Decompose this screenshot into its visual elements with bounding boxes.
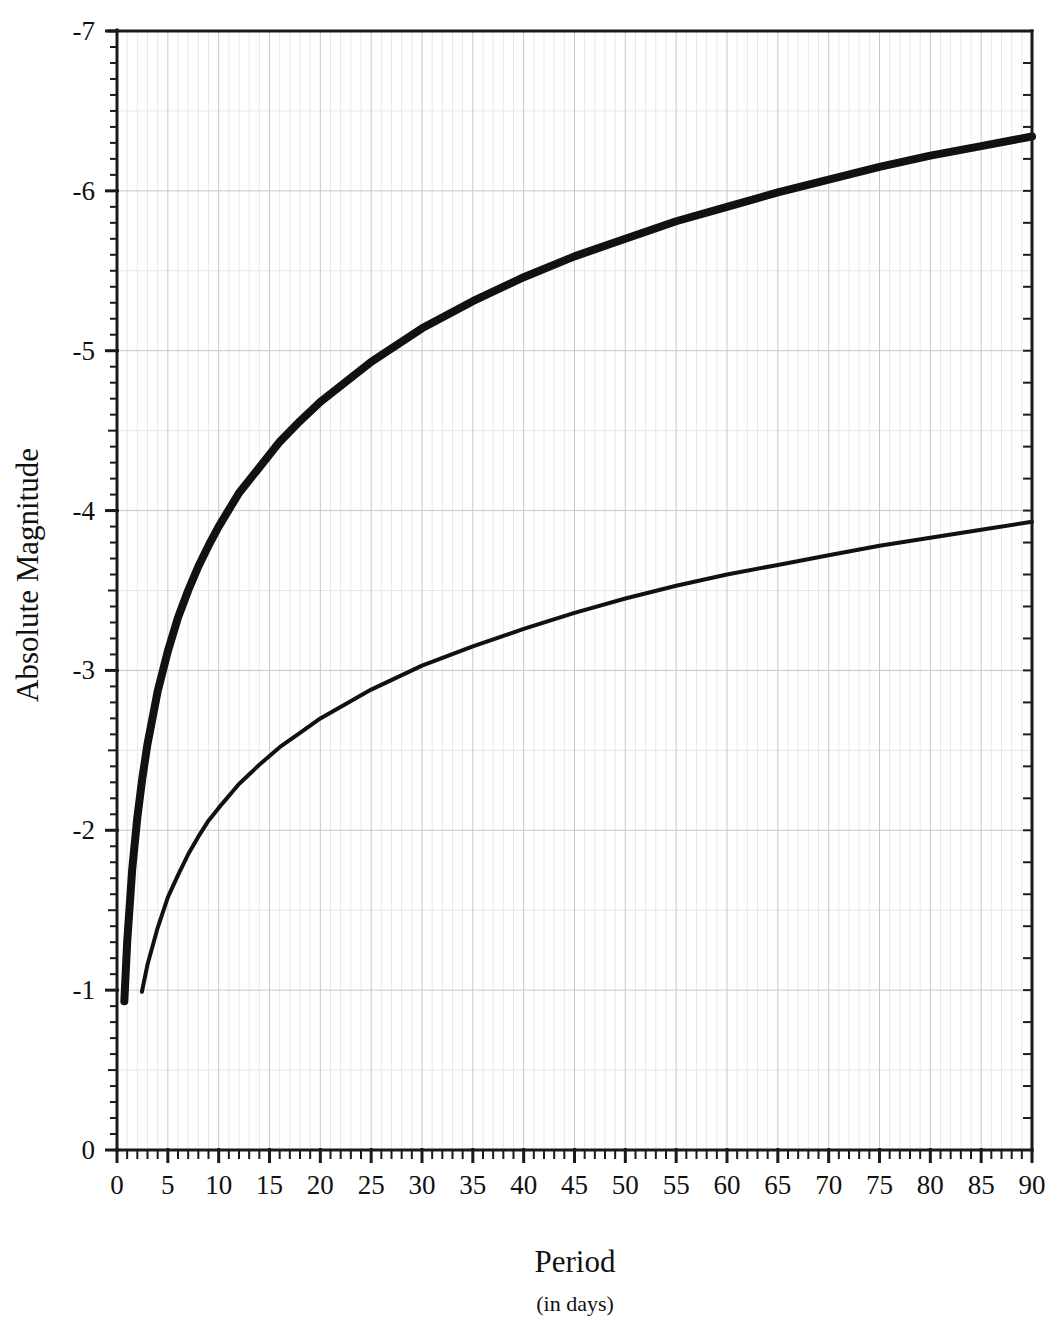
x-tick-label: 80	[917, 1170, 944, 1200]
chart-container: 051015202530354045505560657075808590 0-1…	[0, 0, 1064, 1327]
x-axis-subtitle: (in days)	[536, 1291, 614, 1316]
x-tick-label: 40	[510, 1170, 537, 1200]
x-tick-label: 55	[663, 1170, 690, 1200]
x-tick-label: 90	[1019, 1170, 1046, 1200]
y-axis-title: Absolute Magnitude	[10, 448, 45, 702]
x-tick-label: 5	[161, 1170, 175, 1200]
x-tick-label: 25	[358, 1170, 385, 1200]
x-tick-label: 75	[866, 1170, 893, 1200]
x-tick-label: 20	[307, 1170, 334, 1200]
x-tick-label: 70	[815, 1170, 842, 1200]
y-tick-label: -3	[73, 655, 96, 685]
x-tick-label: 10	[205, 1170, 232, 1200]
x-tick-label: 50	[612, 1170, 639, 1200]
y-tick-label: -4	[73, 496, 96, 526]
x-axis-title: Period	[535, 1244, 616, 1279]
x-tick-label: 30	[409, 1170, 436, 1200]
x-tick-label: 60	[714, 1170, 741, 1200]
y-tick-label: 0	[82, 1135, 96, 1165]
x-tick-label: 15	[256, 1170, 283, 1200]
y-tick-label: -6	[73, 176, 96, 206]
plot-background	[0, 0, 1064, 1327]
x-tick-label: 35	[459, 1170, 486, 1200]
x-tick-label: 85	[968, 1170, 995, 1200]
x-tick-label: 45	[561, 1170, 588, 1200]
period-luminosity-plot: 051015202530354045505560657075808590 0-1…	[0, 0, 1064, 1327]
y-tick-label: -1	[73, 975, 96, 1005]
y-tick-label: -2	[73, 815, 96, 845]
y-tick-label: -7	[73, 16, 96, 46]
x-tick-label: 0	[110, 1170, 124, 1200]
y-tick-label: -5	[73, 336, 96, 366]
x-tick-label: 65	[764, 1170, 791, 1200]
